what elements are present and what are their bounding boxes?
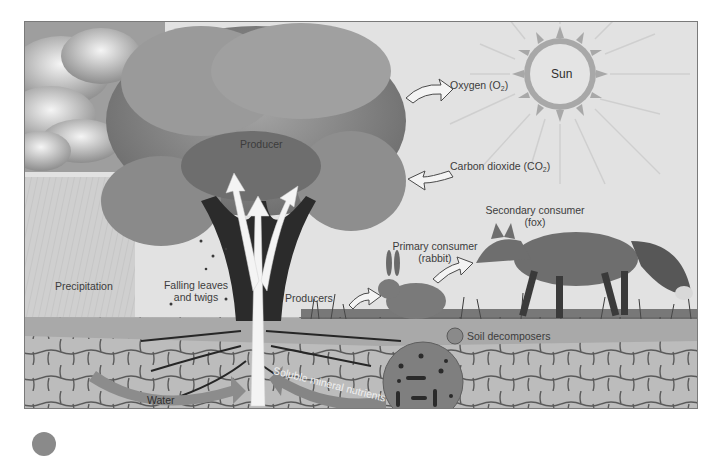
soil-decomposer-icon bbox=[447, 328, 463, 344]
label-secondary-consumer-line2: (fox) bbox=[475, 216, 595, 228]
label-primary-consumer: Primary consumer (rabbit) bbox=[385, 240, 485, 264]
ecosystem-diagram: Sun Oxygen (O2) Carbon dioxide (CO2) Pro… bbox=[24, 21, 698, 409]
label-producer: Producer bbox=[240, 138, 283, 150]
label-primary-consumer-line2: (rabbit) bbox=[385, 252, 485, 264]
label-secondary-consumer: Secondary consumer (fox) bbox=[475, 204, 595, 228]
scene-illustration bbox=[25, 22, 697, 408]
figure-step-marker-icon bbox=[32, 432, 56, 456]
label-carbon-dioxide: Carbon dioxide (CO2) bbox=[450, 160, 550, 172]
label-falling-leaves-line2: and twigs bbox=[151, 291, 241, 303]
label-co2-text: Carbon dioxide (CO bbox=[450, 160, 543, 172]
label-primary-consumer-line1: Primary consumer bbox=[385, 240, 485, 252]
label-producers: Producers bbox=[285, 292, 333, 304]
label-co2-end: ) bbox=[547, 160, 551, 172]
label-oxygen-text: Oxygen (O bbox=[450, 79, 501, 91]
label-water: Water bbox=[147, 394, 175, 406]
label-secondary-consumer-line1: Secondary consumer bbox=[475, 204, 595, 216]
label-precipitation: Precipitation bbox=[55, 280, 113, 292]
label-falling-leaves: Falling leaves and twigs bbox=[151, 279, 241, 303]
label-oxygen: Oxygen (O2) bbox=[450, 79, 508, 91]
label-soil-decomposers: Soil decomposers bbox=[467, 330, 550, 342]
label-oxygen-end: ) bbox=[505, 79, 509, 91]
label-sun: Sun bbox=[551, 68, 572, 80]
label-falling-leaves-line1: Falling leaves bbox=[151, 279, 241, 291]
